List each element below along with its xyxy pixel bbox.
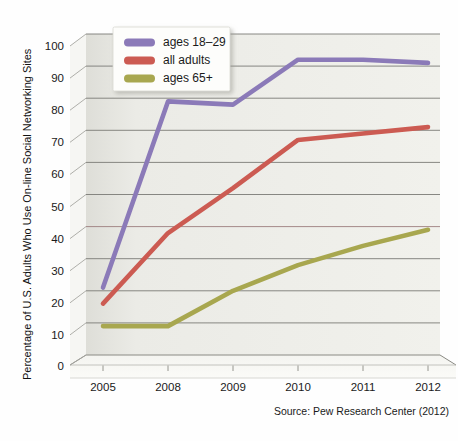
y-tick-label: 30: [51, 265, 64, 277]
y-tick-label: 40: [51, 233, 64, 245]
y-tick-label: 0: [58, 360, 64, 372]
plot-floor: [70, 355, 456, 378]
legend-swatch-ages-18-29: [124, 39, 155, 47]
x-tick-label: 2011: [351, 381, 376, 393]
x-tick-label: 2005: [90, 381, 116, 393]
x-axis-tick-labels: 2005 2008 2009 2010 2011 2012: [90, 381, 441, 393]
x-tick-label: 2010: [285, 381, 311, 393]
x-tick-label: 2008: [155, 381, 181, 393]
y-tick-label: 100: [45, 40, 64, 52]
y-axis-title: Percentage of U.S. Adults Who Use On-lin…: [21, 48, 33, 380]
legend-label-all-adults: all adults: [163, 53, 210, 67]
legend-label-ages-65-plus: ages 65+: [163, 71, 213, 85]
y-tick-label: 90: [51, 72, 64, 84]
social-networking-line-chart: 100 90 80 70 60 50 40 30 20 10 0 Percent…: [0, 0, 458, 441]
x-tick-label: 2009: [220, 381, 246, 393]
y-tick-label: 10: [51, 329, 64, 341]
y-tick-label: 60: [51, 168, 64, 180]
x-tick-label: 2012: [415, 381, 441, 393]
y-tick-label: 80: [51, 104, 64, 116]
y-tick-label: 50: [51, 201, 64, 213]
legend-swatch-all-adults: [124, 57, 155, 65]
y-tick-label: 20: [51, 297, 64, 309]
legend-label-ages-18-29: ages 18–29: [163, 35, 226, 49]
y-axis-tick-labels: 100 90 80 70 60 50 40 30 20 10 0: [45, 40, 64, 372]
chart-figure: 100 90 80 70 60 50 40 30 20 10 0 Percent…: [0, 0, 458, 441]
legend-swatch-ages-65-plus: [124, 75, 155, 83]
y-tick-label: 70: [51, 136, 64, 148]
source-note: Source: Pew Research Center (2012): [274, 405, 449, 417]
